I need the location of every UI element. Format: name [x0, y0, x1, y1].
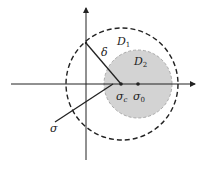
- label-sigma: σ: [50, 122, 58, 135]
- label-delta: δ: [101, 46, 108, 59]
- disk-diagram: D1 D2 δ σ σc σ0: [0, 0, 205, 169]
- label-d1: D1: [116, 35, 130, 49]
- point-sigma-0: [136, 82, 140, 86]
- point-delta-end: [85, 42, 87, 44]
- point-sigma-c: [119, 82, 123, 86]
- sigma-segment: [55, 84, 113, 122]
